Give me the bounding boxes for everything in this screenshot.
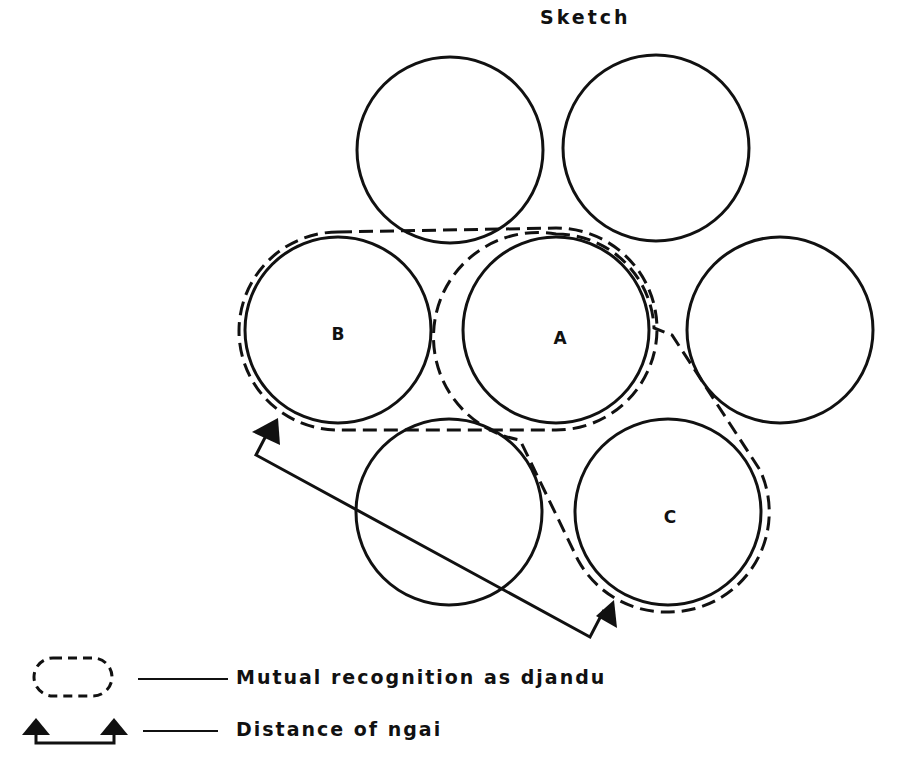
- legend-label-ngai: Distance of ngai: [236, 718, 442, 740]
- djandu-grouping-b-a: [239, 228, 657, 430]
- legend-label-djandu: Mutual recognition as djandu: [236, 666, 606, 688]
- legend-dashed-oval-icon: [34, 658, 112, 696]
- circle-label-a: A: [553, 328, 566, 348]
- circle-top-left: [357, 57, 543, 243]
- diagram-title: Sketch: [540, 6, 631, 28]
- circle-label-c: C: [664, 507, 676, 527]
- kinship-sketch-diagram: [0, 0, 902, 780]
- legend-arrow-bracket-icon: [22, 718, 128, 743]
- djandu-grouping-a-c: [433, 232, 769, 612]
- circle-right: [687, 237, 873, 423]
- circle-label-b: B: [332, 324, 345, 344]
- circle-bottom-left: [356, 419, 542, 605]
- circle-top-right: [563, 55, 749, 241]
